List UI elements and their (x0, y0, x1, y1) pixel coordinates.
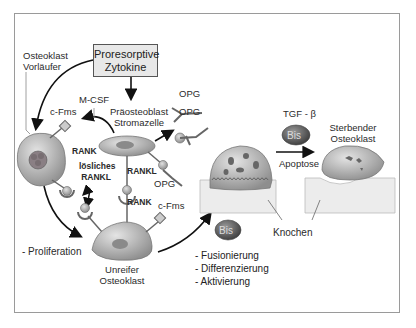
preosteoblast-nucleus (116, 141, 134, 149)
rank-bottom-label: RANK (127, 197, 152, 208)
bone-2 (305, 178, 395, 213)
cfms-bottom-label: c-Fms (158, 200, 184, 211)
apoptose-label: Apoptose (279, 158, 319, 169)
proresorptive-cytokines-box: Proresorptive Zytokine (93, 44, 158, 77)
rankl-label: RANKL (127, 166, 157, 177)
bis-bottom-label: Bis (219, 225, 233, 236)
dying-osteoclast-label: SterbenderOsteoklast (325, 122, 381, 144)
box-line-2: Zytokine (94, 61, 157, 74)
mcsf-label: M-CSF (79, 94, 109, 105)
box-line-1: Proresorptive (94, 48, 157, 61)
knochen-label: Knochen (273, 227, 312, 238)
process-list: - Fusionierung - Differenzierung - Aktiv… (195, 249, 269, 288)
precursor-leader-line (26, 72, 30, 134)
dying-osteoclast-cell (322, 146, 384, 180)
cfms-receptor-icon (59, 120, 70, 131)
precursor-label: OsteoklastVorläufer (23, 50, 68, 72)
bis-top-label: Bis (287, 130, 301, 141)
opg-label-1: OPG (179, 88, 200, 99)
opg-label-3: OPG (154, 178, 175, 189)
immature-nucleus (112, 239, 128, 249)
process-item: - Differenzierung (195, 262, 269, 275)
rank-top-label: RANK (72, 146, 97, 157)
cfms-top-label: c-Fms (50, 106, 76, 117)
process-item: - Fusionierung (195, 249, 269, 262)
tgf-beta-label: TGF - β (283, 108, 316, 119)
opg-label-2: OPG (179, 106, 200, 117)
preosteoblast-label: PräosteoblastStromazelle (108, 106, 170, 128)
soluble-rankl-bound (63, 187, 72, 196)
immature-osteoclast-label: UnreiferOsteoklast (96, 264, 148, 286)
process-item: - Aktivierung (195, 275, 269, 288)
arrow-opg (155, 131, 172, 141)
soluble-rankl-label: löslichesRANKL (79, 161, 113, 183)
proliferation-label: - Proliferation (22, 246, 81, 257)
